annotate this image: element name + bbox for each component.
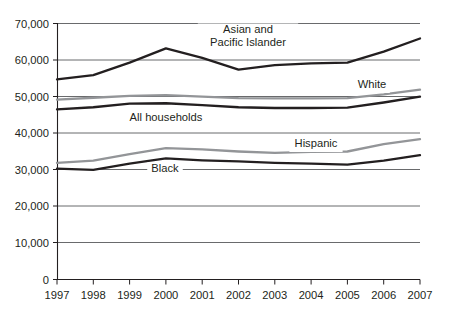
ytick-label-20000: 20,000 xyxy=(15,200,49,212)
data-series-group xyxy=(57,38,420,169)
xtick-label-1998: 1998 xyxy=(81,289,106,301)
hispanic-label-line-0: Hispanic xyxy=(295,137,338,149)
xtick-label-1999: 1999 xyxy=(117,289,142,301)
y-axis-labels: 70,000 60,000 50,000 40,000 30,000 20,00… xyxy=(15,18,49,286)
xtick-label-2004: 2004 xyxy=(299,289,324,301)
all-households-label-line-0: All households xyxy=(130,111,203,123)
series-line-hispanic xyxy=(57,139,420,163)
xtick-label-2007: 2007 xyxy=(408,289,433,301)
asian-pacific-islander-label-line-0: Asian and xyxy=(223,23,273,35)
ytick-label-30000: 30,000 xyxy=(15,164,49,176)
xtick-label-2006: 2006 xyxy=(371,289,396,301)
median-household-income-line-chart: 70,000 60,000 50,000 40,000 30,000 20,00… xyxy=(0,0,451,322)
ytick-label-60000: 60,000 xyxy=(15,54,49,66)
ytick-label-40000: 40,000 xyxy=(15,127,49,139)
black-label: Black xyxy=(151,162,179,174)
ytick-label-50000: 50,000 xyxy=(15,91,49,103)
xtick-label-2001: 2001 xyxy=(190,289,215,301)
ytick-label-0: 0 xyxy=(43,274,49,286)
x-axis-tick-marks xyxy=(57,280,420,285)
asian-pacific-islander-label-line-1: Pacific Islander xyxy=(210,36,286,48)
y-axis-tick-marks xyxy=(53,24,57,280)
xtick-label-2005: 2005 xyxy=(335,289,360,301)
white-label-line-0: White xyxy=(358,78,387,90)
hispanic-label: Hispanic xyxy=(295,137,338,149)
xtick-label-2000: 2000 xyxy=(153,289,178,301)
all-households-label: All households xyxy=(130,111,203,123)
ytick-label-70000: 70,000 xyxy=(15,18,49,30)
ytick-label-10000: 10,000 xyxy=(15,237,49,249)
x-axis-labels: 1997199819992000200120022003200420052006… xyxy=(45,289,433,301)
xtick-label-2003: 2003 xyxy=(262,289,287,301)
white-label: White xyxy=(358,78,387,90)
series-annotations: Asian andPacific IslanderWhiteAll househ… xyxy=(122,23,390,177)
chart-canvas: 70,000 60,000 50,000 40,000 30,000 20,00… xyxy=(0,0,451,322)
xtick-label-2002: 2002 xyxy=(226,289,251,301)
xtick-label-1997: 1997 xyxy=(45,289,70,301)
black-label-line-0: Black xyxy=(151,162,179,174)
